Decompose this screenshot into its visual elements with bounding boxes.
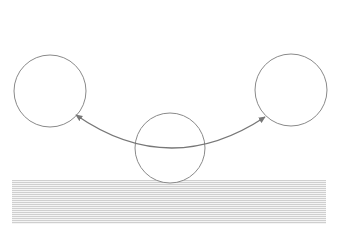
circle-right <box>255 54 327 126</box>
circle-left <box>14 55 86 127</box>
diagram-canvas <box>0 0 343 233</box>
